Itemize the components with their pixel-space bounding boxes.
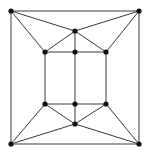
graph-vertex-apex-top <box>72 28 77 33</box>
graph-vertex-outer-top-left <box>8 8 13 13</box>
graph-edge-apex-bottom--inner-bottom-left <box>45 104 75 124</box>
graph-edge-outer-bottom-right--apex-bottom <box>75 124 139 144</box>
graph-vertex-inner-bottom-mid <box>72 101 77 106</box>
graph-edge-outer-bottom-right--inner-bottom-right <box>106 104 139 144</box>
graph-edge-outer-top-left--inner-top-left <box>11 11 45 52</box>
graph-edge-outer-bottom-left--inner-bottom-left <box>11 104 45 144</box>
graph-edge-apex-top--inner-top-right <box>75 31 106 52</box>
graph-vertex-inner-bottom-right <box>103 101 108 106</box>
graph-figure <box>0 0 148 153</box>
graph-vertex-inner-top-left <box>42 49 47 54</box>
graph-vertex-inner-bottom-left <box>42 101 47 106</box>
graph-vertex-outer-top-right <box>136 8 141 13</box>
graph-vertex-apex-bottom <box>72 121 77 126</box>
graph-vertex-inner-top-mid <box>72 49 77 54</box>
graph-edge-outer-top-right--apex-top <box>75 11 139 31</box>
graph-edge-apex-bottom--inner-bottom-right <box>75 104 106 124</box>
graph-vertex-outer-bottom-left <box>8 141 13 146</box>
graph-vertex-outer-bottom-right <box>136 141 141 146</box>
graph-canvas <box>0 0 148 153</box>
graph-edge-outer-bottom-left--apex-bottom <box>11 124 75 144</box>
graph-edge-outer-top-left--apex-top <box>11 11 75 31</box>
graph-vertex-inner-top-right <box>103 49 108 54</box>
graph-edge-apex-top--inner-top-left <box>45 31 75 52</box>
graph-edge-outer-top-right--inner-top-right <box>106 11 139 52</box>
